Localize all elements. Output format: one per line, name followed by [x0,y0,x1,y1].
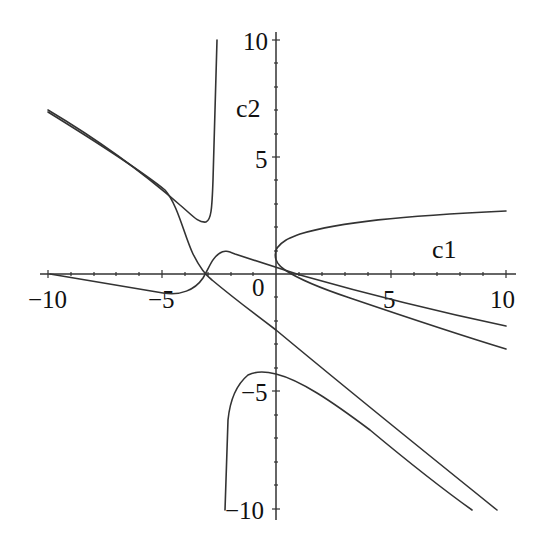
y-axis-label: c2 [236,94,261,123]
x-tick-label-10: 10 [490,286,515,313]
curve-upper-left-descending [48,112,497,510]
x-tick-label-neg5: −5 [148,286,175,313]
curve-upper-left-hyperbola [48,40,217,222]
y-tick-label-neg10: −10 [225,497,264,524]
y-tick-label-neg5: −5 [241,379,268,406]
y-tick-label-10: 10 [243,28,268,55]
y-tick-label-5: 5 [255,146,268,173]
implicit-plot: −10 −5 0 5 10 10 5 −5 −10 c2 c1 [0,0,535,546]
x-axis-label: c1 [432,235,457,264]
x-tick-label-neg10: −10 [28,286,67,313]
x-tick-label-0: 0 [252,274,265,301]
curve-right-parabola-upper [277,211,506,248]
